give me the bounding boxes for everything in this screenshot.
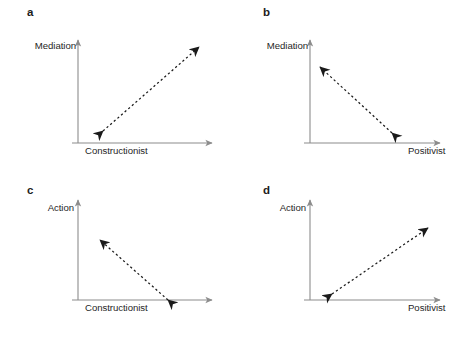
panel-c-axes: [0, 178, 235, 356]
panel-d-relationship-arrow: [332, 228, 428, 294]
panel-d-x-axis-label: Positivist: [408, 303, 445, 313]
panel-c-y-axis-label: Action: [48, 203, 74, 213]
panel-b-x-axis-label: Positivist: [408, 146, 445, 156]
panel-b-y-axis-label: Mediation: [267, 41, 308, 51]
panel-b: b Mediation Positivist: [236, 0, 471, 178]
panel-b-relationship-arrow: [320, 67, 392, 133]
panel-c: c Action Constructionist: [0, 178, 235, 356]
panel-a: a Mediation Constructionist: [0, 0, 235, 178]
panel-d-axes: [236, 178, 471, 356]
panel-c-relationship-arrow: [100, 240, 168, 300]
figure-container: a Mediation Constructionist b: [0, 0, 471, 356]
panel-a-x-axis-label: Constructionist: [85, 146, 148, 156]
panel-d-y-axis-label: Action: [280, 203, 306, 213]
panel-a-relationship-arrow: [103, 47, 199, 131]
panel-c-x-axis-label: Constructionist: [85, 303, 148, 313]
panel-a-y-axis-label: Mediation: [35, 41, 76, 51]
panel-d: d Action Positivist: [236, 178, 471, 356]
